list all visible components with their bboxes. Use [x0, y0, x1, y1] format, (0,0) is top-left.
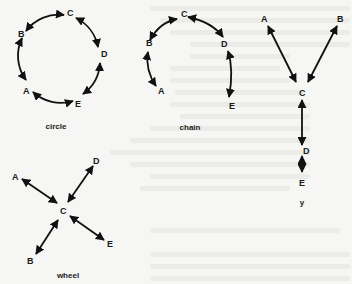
- wheel-node-a: A: [12, 172, 19, 182]
- y-node-a: A: [261, 14, 268, 24]
- y-node-e: E: [299, 178, 305, 188]
- chain-node-c: C: [181, 9, 188, 19]
- wheel-network: A D C E B wheel: [12, 156, 113, 280]
- y-node-b: B: [337, 14, 344, 24]
- chain-caption: chain: [180, 123, 201, 132]
- chain-node-b: B: [146, 38, 153, 48]
- edge-c-d: [76, 18, 98, 47]
- circle-node-b: B: [18, 29, 25, 39]
- y-network: A B C D E y: [261, 14, 344, 207]
- edge-d-c: [68, 166, 93, 202]
- chain-node-e: E: [229, 101, 235, 111]
- wheel-node-d: D: [93, 156, 100, 166]
- wheel-caption: wheel: [56, 271, 79, 280]
- y-node-c: C: [299, 88, 306, 98]
- edge-b-c: [26, 15, 64, 31]
- edge-a-c: [22, 179, 57, 203]
- wheel-node-e: E: [107, 239, 113, 249]
- wheel-node-c: C: [60, 206, 67, 216]
- edge-d-e: [228, 51, 231, 97]
- edge-e-a: [33, 92, 73, 103]
- edge-e-c: [70, 216, 104, 240]
- edge-b-c: [308, 26, 337, 82]
- circle-caption: circle: [46, 122, 67, 131]
- circle-network: C B D A E circle: [18, 8, 108, 131]
- circle-node-d: D: [101, 49, 108, 59]
- chain-node-d: D: [221, 39, 228, 49]
- edge-d-e: [83, 63, 100, 94]
- wheel-node-b: B: [27, 256, 34, 266]
- edge-c-d: [188, 17, 223, 37]
- circle-node-c: C: [67, 8, 74, 18]
- circle-node-e: E: [75, 99, 81, 109]
- edge-b-c: [150, 19, 177, 40]
- edge-a-b: [18, 38, 26, 80]
- chain-network: C B D A E chain: [146, 9, 235, 132]
- edge-b-c: [36, 220, 58, 254]
- y-caption: y: [300, 198, 305, 207]
- chain-node-a: A: [158, 86, 165, 96]
- edge-a-c: [268, 26, 296, 82]
- circle-node-a: A: [23, 86, 30, 96]
- network-diagrams: C B D A E circle C B D A E chain A B C D…: [0, 0, 352, 284]
- y-node-d: D: [303, 146, 310, 156]
- edge-a-b: [147, 52, 156, 86]
